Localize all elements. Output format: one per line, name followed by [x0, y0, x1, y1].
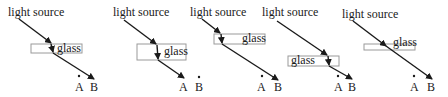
emergent-ray [386, 46, 432, 79]
refracted-ray [51, 44, 53, 52]
point-a-label: A [179, 80, 188, 94]
refraction-diagram: light source glass A B light source glas… [0, 0, 448, 97]
point-a-label: A [75, 80, 84, 94]
light-source-label: light source [190, 5, 246, 19]
emergent-ray [53, 53, 94, 79]
light-source-label: light source [262, 5, 318, 19]
point-b-label: B [427, 80, 435, 94]
emergent-ray [329, 66, 352, 79]
incident-ray [353, 21, 386, 46]
refracted-ray [157, 45, 158, 59]
light-source-label: light source [342, 7, 398, 21]
point-a-dot [413, 75, 415, 77]
point-a-dot [337, 75, 339, 77]
point-a-dot [78, 75, 80, 77]
point-b-dot [198, 76, 200, 78]
refracted-ray [328, 56, 329, 65]
point-b-label: B [195, 80, 203, 94]
incident-ray [277, 21, 327, 55]
point-b-label: B [274, 80, 282, 94]
light-source-label: light source [113, 5, 169, 19]
incident-ray [124, 20, 156, 44]
point-a-label: A [410, 80, 419, 94]
glass-label: glass [393, 35, 417, 49]
glass-label: glass [242, 31, 266, 45]
refracted-ray [221, 34, 222, 43]
glass-label: glass [57, 41, 81, 55]
point-a-label: A [257, 80, 266, 94]
point-a-dot [261, 75, 263, 77]
point-a-label: A [334, 80, 343, 94]
emergent-ray [222, 44, 278, 80]
point-b-label: B [90, 80, 98, 94]
light-source-label: light source [8, 5, 64, 19]
point-b-label: B [348, 80, 356, 94]
emergent-ray [158, 60, 184, 78]
glass-label: glass [164, 44, 188, 58]
incident-ray [202, 19, 220, 33]
panel-1: light source glass A B [8, 5, 98, 94]
incident-ray [19, 19, 51, 43]
glass-label: glass [291, 53, 315, 67]
